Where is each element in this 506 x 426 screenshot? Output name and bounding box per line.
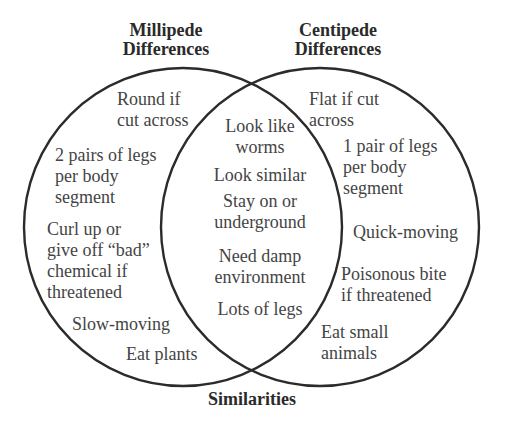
item-line: Look like [202,116,318,137]
item-line: segment [55,187,156,208]
similarities-label: Similarities [208,389,296,409]
item-line: Stay on or [202,191,318,212]
title-line: Differences [283,40,393,59]
centipede-item: Eat small animals [321,322,388,364]
centipede-item: Quick-moving [353,222,458,243]
item-line: per body [343,157,437,178]
item-line: Round if [117,89,188,110]
item-line: per body [55,166,156,187]
item-line: Eat small [321,322,388,343]
item-line: worms [202,137,318,158]
item-line: give off “bad” [47,240,150,261]
title-line: Millipede [111,21,221,40]
similarity-item: Look like worms [202,116,318,158]
millipede-item: Round if cut across [117,89,188,131]
similarities-title: Similarities [196,390,308,409]
item-line: threatened [47,282,150,303]
millipede-item: Eat plants [126,344,197,365]
millipede-title: Millipede Differences [111,21,221,59]
item-line: environment [202,267,318,288]
item-line: Need damp [202,246,318,267]
title-line: Centipede [283,21,393,40]
item-line: Look similar [202,165,318,186]
centipede-item: Poisonous bite if threatened [341,264,447,306]
item-line: Lots of legs [202,299,318,320]
item-line: Poisonous bite [341,264,447,285]
centipede-item: 1 pair of legs per body segment [343,136,437,199]
item-line: Curl up or [47,219,150,240]
item-line: underground [202,212,318,233]
title-line: Differences [111,40,221,59]
item-line: across [309,110,379,131]
item-line: if threatened [341,285,447,306]
item-line: chemical if [47,261,150,282]
item-line: Flat if cut [309,89,379,110]
millipede-item: Curl up or give off “bad” chemical if th… [47,219,150,303]
millipede-item: Slow-moving [72,314,170,335]
similarity-item: Look similar [202,165,318,186]
centipede-title: Centipede Differences [283,21,393,59]
similarity-item: Need damp environment [202,246,318,288]
item-line: cut across [117,110,188,131]
item-line: segment [343,178,437,199]
centipede-item: Flat if cut across [309,89,379,131]
item-line: Quick-moving [353,222,458,243]
millipede-item: 2 pairs of legs per body segment [55,145,156,208]
item-line: Eat plants [126,344,197,365]
similarity-item: Stay on or underground [202,191,318,233]
item-line: Slow-moving [72,314,170,335]
item-line: animals [321,343,388,364]
venn-diagram: Millipede Differences Centipede Differen… [0,0,506,426]
item-line: 1 pair of legs [343,136,437,157]
item-line: 2 pairs of legs [55,145,156,166]
similarity-item: Lots of legs [202,299,318,320]
